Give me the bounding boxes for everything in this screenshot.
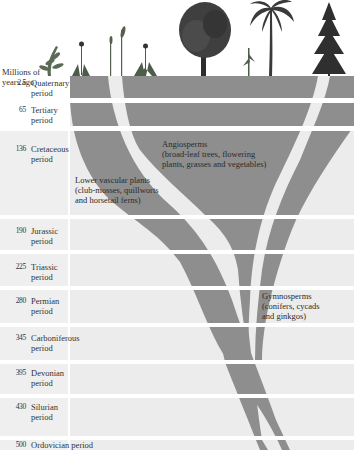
label-angiosperms: Angiosperms (broad-leaf trees, flowering… xyxy=(162,139,266,169)
period-age: 395 xyxy=(4,368,26,378)
conifer-tree-illustration xyxy=(312,2,346,76)
label-gymnosperms: Gymnosperms (conifers, cycads and ginkgo… xyxy=(262,291,320,321)
axis-title-line: Millions of xyxy=(2,67,40,77)
group-label-line: Gymnosperms xyxy=(262,291,320,301)
corn-illustration xyxy=(243,48,255,76)
period-age: 2.5 xyxy=(4,78,26,88)
period-name: Ordovician period xyxy=(31,440,93,450)
period-name: Quaternaryperiod xyxy=(31,78,69,98)
group-label-line: (club-mosses, quillworts xyxy=(75,185,159,195)
group-label-line: (conifers, cycads xyxy=(262,301,320,311)
period-name: Tertiaryperiod xyxy=(31,105,58,125)
group-label-line: Angiosperms xyxy=(162,139,266,149)
dandelion-illustration xyxy=(72,42,90,77)
period-name: Cretaceousperiod xyxy=(31,144,69,164)
period-age: 430 xyxy=(4,402,26,412)
period-age: 345 xyxy=(4,333,26,343)
period-age: 280 xyxy=(4,296,26,306)
period-age: 190 xyxy=(4,226,26,236)
period-name: Silurianperiod xyxy=(31,402,58,422)
group-label-line: and horsetail ferns) xyxy=(75,195,159,205)
label-lower-vascular-plants: Lower vascular plants (club-mosses, quil… xyxy=(75,175,159,205)
period-name: Jurassicperiod xyxy=(31,226,58,246)
thistle-illustration xyxy=(134,44,157,77)
group-label-line: plants, grasses and vegetables) xyxy=(162,159,266,169)
period-name: Triassicperiod xyxy=(31,262,58,282)
group-label-line: (broad-leaf trees, flowering xyxy=(162,149,266,159)
period-name: Carboniferousperiod xyxy=(31,333,80,353)
palm-tree-illustration xyxy=(250,0,294,76)
plant-illustrations xyxy=(39,0,346,76)
broadleaf-tree-illustration xyxy=(179,2,231,76)
group-label-line: and ginkgos) xyxy=(262,311,320,321)
period-name: Devonianperiod xyxy=(31,368,64,388)
fern-illustration xyxy=(39,46,65,76)
period-name: Permianperiod xyxy=(31,296,59,316)
group-label-line: Lower vascular plants xyxy=(75,175,159,185)
period-age: 500 xyxy=(4,440,26,450)
plant-evolution-diagram: Millions of years ago 2.5 Quaternaryperi… xyxy=(0,0,354,450)
period-age: 136 xyxy=(4,144,26,154)
reed-illustration xyxy=(110,26,127,76)
period-age: 225 xyxy=(4,262,26,272)
period-age: 65 xyxy=(4,105,26,115)
